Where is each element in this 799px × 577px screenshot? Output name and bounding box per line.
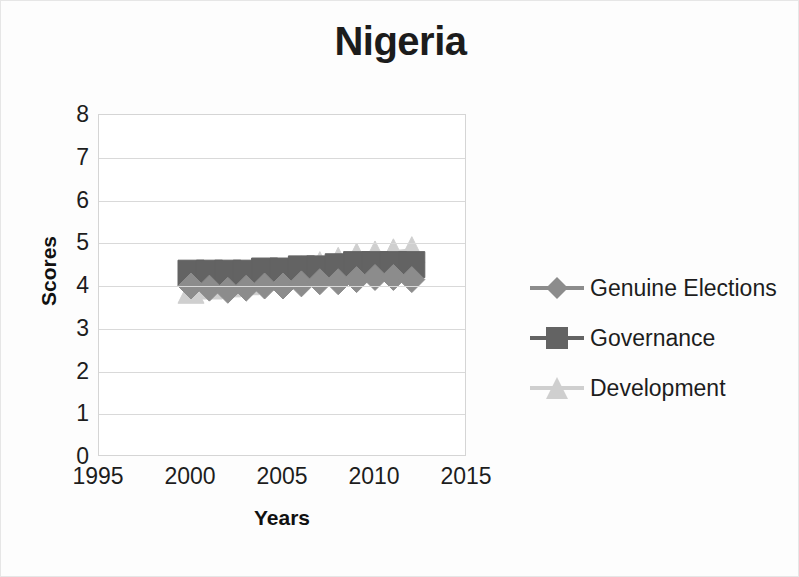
gridline (99, 414, 465, 415)
gridline (99, 286, 465, 287)
legend-item-development[interactable]: Development (528, 363, 788, 413)
y-tick-label: 3 (76, 314, 89, 341)
y-tick-label: 2 (76, 357, 89, 384)
gridline (99, 158, 465, 159)
x-tick-label: 2000 (164, 463, 215, 490)
gridline (99, 329, 465, 330)
diamond-marker-icon (528, 275, 586, 301)
gridline (99, 372, 465, 373)
legend-item-governance[interactable]: Governance (528, 313, 788, 363)
plot-area (98, 114, 466, 456)
y-axis-tick-labels: 012345678 (49, 114, 89, 456)
x-tick-label: 2010 (348, 463, 399, 490)
y-tick-label: 7 (76, 143, 89, 170)
chart-screenshot: Nigeria Scores 012345678 199520002005201… (0, 0, 799, 577)
y-tick-label: 8 (76, 101, 89, 128)
y-tick-label: 4 (76, 272, 89, 299)
x-axis-title: Years (98, 506, 466, 530)
gridline (99, 243, 465, 244)
x-axis-tick-labels: 19952000200520102015 (98, 463, 466, 497)
legend-label: Development (586, 375, 726, 402)
y-tick-label: 5 (76, 229, 89, 256)
y-tick-label: 6 (76, 186, 89, 213)
chart-legend: Genuine ElectionsGovernanceDevelopment (528, 263, 788, 413)
legend-label: Genuine Elections (586, 275, 777, 302)
triangle-marker-icon (528, 375, 586, 401)
x-tick-label: 1995 (72, 463, 123, 490)
square-marker-icon (528, 325, 586, 351)
legend-label: Governance (586, 325, 715, 352)
chart-title: Nigeria (1, 19, 799, 64)
legend-item-genuine-elections[interactable]: Genuine Elections (528, 263, 788, 313)
y-tick-label: 1 (76, 400, 89, 427)
x-tick-label: 2005 (256, 463, 307, 490)
gridline (99, 201, 465, 202)
x-tick-label: 2015 (440, 463, 491, 490)
